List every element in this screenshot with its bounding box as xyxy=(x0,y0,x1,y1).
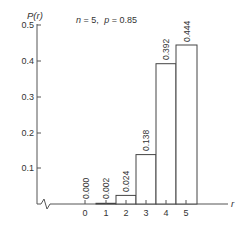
y-tick-label: 0.3 xyxy=(21,92,34,102)
y-tick-label: 0.1 xyxy=(21,163,34,173)
x-tick-label: 2 xyxy=(123,208,128,218)
value-label: 0.444 xyxy=(182,20,192,42)
value-label: 0.000 xyxy=(81,177,91,199)
x-tick-label: 1 xyxy=(103,208,108,218)
bars xyxy=(96,45,197,204)
value-label: 0.024 xyxy=(121,170,131,192)
bar-r5 xyxy=(176,45,197,204)
value-label: 0.392 xyxy=(161,38,171,60)
chart-title: n = 5, p = 0.85 xyxy=(76,15,137,25)
bar-r4 xyxy=(156,64,176,204)
x-tick-label: 0 xyxy=(82,208,87,218)
x-tick-label: 5 xyxy=(183,208,188,218)
y-ticks: 0.5 0.4 0.3 0.2 0.1 xyxy=(21,20,41,173)
value-label: 0.138 xyxy=(141,129,151,151)
x-tick-label: 4 xyxy=(163,208,168,218)
x-tick-labels: 0 1 2 3 4 5 xyxy=(82,208,188,218)
x-axis-title: r xyxy=(231,198,235,209)
y-tick-label: 0.2 xyxy=(21,128,34,138)
value-label: 0.002 xyxy=(101,177,111,199)
binomial-bar-chart: P(r) n = 5, p = 0.85 0.5 0.4 0.3 0.2 0.1… xyxy=(0,0,244,225)
y-tick-label: 0.4 xyxy=(21,56,34,66)
bar-r3 xyxy=(136,155,156,204)
y-tick-label: 0.5 xyxy=(21,20,34,30)
x-tick-label: 3 xyxy=(143,208,148,218)
